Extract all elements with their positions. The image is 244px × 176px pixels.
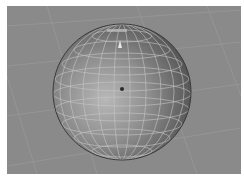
sphere-object[interactable] xyxy=(53,24,191,160)
pivot-point-icon[interactable] xyxy=(120,87,124,91)
viewport-scene xyxy=(7,6,241,174)
3d-viewport[interactable] xyxy=(7,6,241,174)
